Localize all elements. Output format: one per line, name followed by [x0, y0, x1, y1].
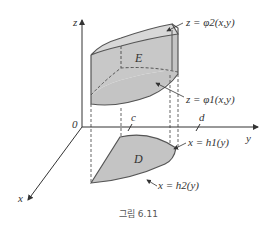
- h1-boundary-label: x = h1(y): [187, 136, 229, 149]
- lower-surface-label: z = φ1(x,y): [185, 93, 235, 106]
- x-axis: [28, 127, 82, 200]
- x-axis-label: x: [17, 192, 23, 204]
- region-D-label: D: [133, 152, 143, 166]
- h2-boundary-label: x = h2(y): [157, 179, 199, 192]
- figure-caption: 그림 6.11: [119, 208, 158, 219]
- origin-label: 0: [72, 118, 78, 130]
- region-E-label: E: [134, 51, 143, 65]
- figure-canvas: z y x 0 c d E D z = φ2(x,y) z = φ1(x,y) …: [0, 0, 274, 227]
- tick-d-label: d: [199, 111, 205, 123]
- z-axis-label: z: [72, 16, 78, 28]
- y-axis-label: y: [245, 132, 251, 144]
- upper-surface-label: z = φ2(x,y): [185, 16, 235, 29]
- tick-c-label: c: [131, 111, 136, 123]
